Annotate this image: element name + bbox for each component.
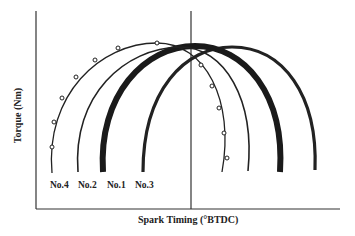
label-no2: No.2 (78, 180, 97, 190)
curve-no3 (143, 47, 315, 172)
label-no1: No.1 (107, 180, 126, 190)
chart-canvas (0, 0, 355, 236)
y-axis-label: Torque (Nm) (12, 66, 23, 166)
x-axis-label: Spark Timing (°BTDC) (138, 214, 238, 225)
label-no3: No.3 (135, 180, 154, 190)
curve-no4-markers (50, 41, 229, 160)
label-no4: No.4 (50, 180, 69, 190)
